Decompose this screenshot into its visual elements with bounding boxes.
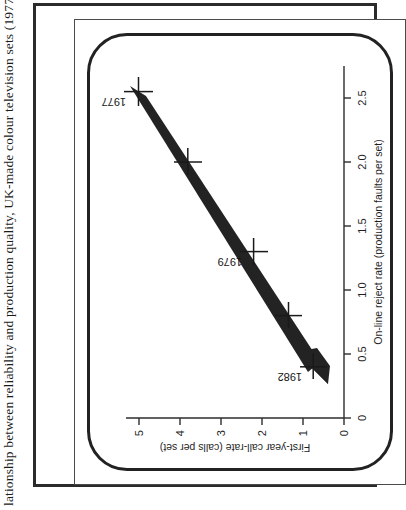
x-tick-label-1_5: 1.5 [356, 218, 368, 233]
x-tick-label-2_5: 2.5 [356, 90, 368, 105]
chart-canvas: 0 1 2 3 4 5 [96, 46, 386, 458]
x-tick-label-1_0: 1.0 [356, 282, 368, 297]
outer-border: 0 1 2 3 4 5 [33, 3, 377, 487]
data-series-band [130, 86, 330, 384]
y-tick-group [139, 418, 344, 425]
y-tick-label-0: 0 [338, 430, 350, 436]
figure-caption: lationship between reliability and produ… [2, 0, 16, 506]
y-tick-label-2: 2 [256, 430, 268, 436]
point-label-1982: 1982 [278, 371, 302, 383]
x-tick-label-2_0: 2.0 [356, 154, 368, 169]
figure-caption-container: lationship between reliability and produ… [0, 0, 30, 510]
scatter-line-chart: 0 1 2 3 4 5 [96, 46, 386, 458]
point-label-1977: 1977 [102, 96, 126, 108]
y-tick-labels: 0 1 2 3 4 5 [133, 430, 350, 436]
x-axis-title: On-line reject rate (production faults p… [372, 139, 384, 344]
x-tick-group [344, 98, 351, 418]
point-label-1979: 1979 [218, 256, 242, 268]
y-axis-title: First-year call-rate (calls per set) [160, 442, 311, 454]
data-point-labels: 1977 1979 1982 [102, 96, 302, 383]
x-tick-label-0_5: 0.5 [356, 346, 368, 361]
y-tick-label-5: 5 [133, 430, 145, 436]
x-tick-labels: 0 0.5 1.0 1.5 2.0 2.5 [356, 90, 368, 421]
chart-rotation-container: 0 1 2 3 4 5 [96, 46, 386, 458]
y-tick-label-1: 1 [297, 430, 309, 436]
x-tick-label-0: 0 [356, 415, 368, 421]
series-wedge [130, 86, 320, 372]
y-tick-label-3: 3 [215, 430, 227, 436]
y-tick-label-4: 4 [174, 430, 186, 436]
